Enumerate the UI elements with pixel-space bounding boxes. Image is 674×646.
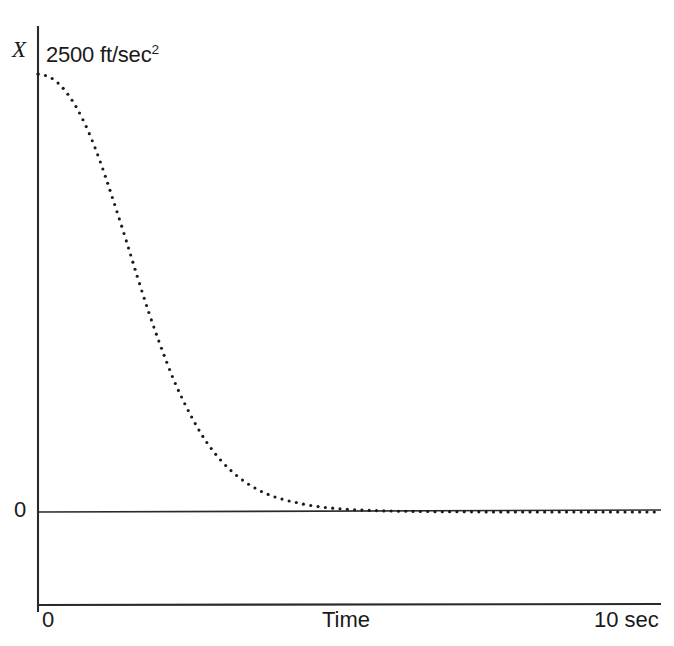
x-axis-max-tick-label: 10 sec	[594, 609, 659, 631]
chart-figure: X 2500 ft/sec2 0 0 Time 10 sec	[0, 0, 674, 646]
x-axis-line	[38, 604, 661, 605]
peak-value-annotation: 2500 ft/sec2	[46, 44, 159, 66]
y-axis-zero-tick-label: 0	[14, 499, 26, 521]
chart-plot-area	[0, 0, 674, 646]
peak-value-text: 2500 ft/sec	[46, 42, 151, 67]
x-axis-title: Time	[322, 609, 370, 631]
y-axis-label: X	[12, 38, 26, 61]
peak-value-exponent: 2	[151, 42, 158, 57]
data-series-curve	[36, 72, 655, 513]
x-axis-origin-tick-label: 0	[42, 609, 54, 631]
